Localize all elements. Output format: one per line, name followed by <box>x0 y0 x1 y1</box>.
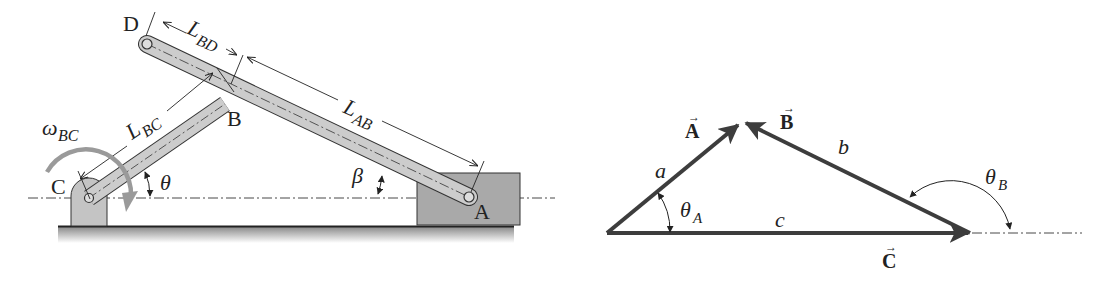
beta-angle-arc <box>378 176 382 194</box>
pin-c <box>85 194 94 203</box>
label-theta-b: θ B <box>985 164 1007 193</box>
label-side-c: c <box>775 207 785 232</box>
svg-text:→: → <box>783 101 795 115</box>
point-label-a: A <box>474 199 490 224</box>
point-label-b: B <box>227 106 242 131</box>
label-theta-a: θ A <box>680 197 703 226</box>
label-omega-bc: ω BC <box>42 115 79 144</box>
label-vector-c: C → <box>882 240 897 272</box>
svg-text:θ: θ <box>680 197 691 222</box>
point-label-c: C <box>51 174 66 199</box>
svg-text:A: A <box>692 210 703 226</box>
label-side-b: b <box>838 134 849 159</box>
angular-velocity-arrowhead <box>122 191 138 212</box>
pin-a <box>464 192 474 202</box>
svg-text:θ: θ <box>985 164 996 189</box>
point-label-d: D <box>123 11 139 36</box>
vector-triangle-diagram: A → B → C → a b c θ A θ B <box>607 101 1082 272</box>
label-l-bd: L BD <box>181 14 226 55</box>
label-side-a: a <box>655 158 666 183</box>
label-theta: θ <box>160 170 171 195</box>
vector-a <box>607 125 738 233</box>
svg-text:BC: BC <box>58 127 79 144</box>
linkage-diagram: D B C A L BD L AB L BC ω BC θ β <box>28 11 555 243</box>
ground-shading <box>58 227 514 243</box>
svg-text:→: → <box>885 240 897 254</box>
label-vector-a: A → <box>685 110 700 142</box>
theta-a-arc <box>658 193 670 232</box>
svg-text:→: → <box>688 110 700 124</box>
label-l-ab: L AB <box>337 93 380 133</box>
label-vector-b: B → <box>780 101 795 133</box>
diagram-canvas: D B C A L BD L AB L BC ω BC θ β <box>0 0 1105 283</box>
svg-text:ω: ω <box>42 115 58 140</box>
svg-text:B: B <box>998 177 1007 193</box>
label-beta: β <box>351 163 363 188</box>
theta-angle-arc <box>145 172 150 196</box>
pin-d <box>142 39 152 49</box>
